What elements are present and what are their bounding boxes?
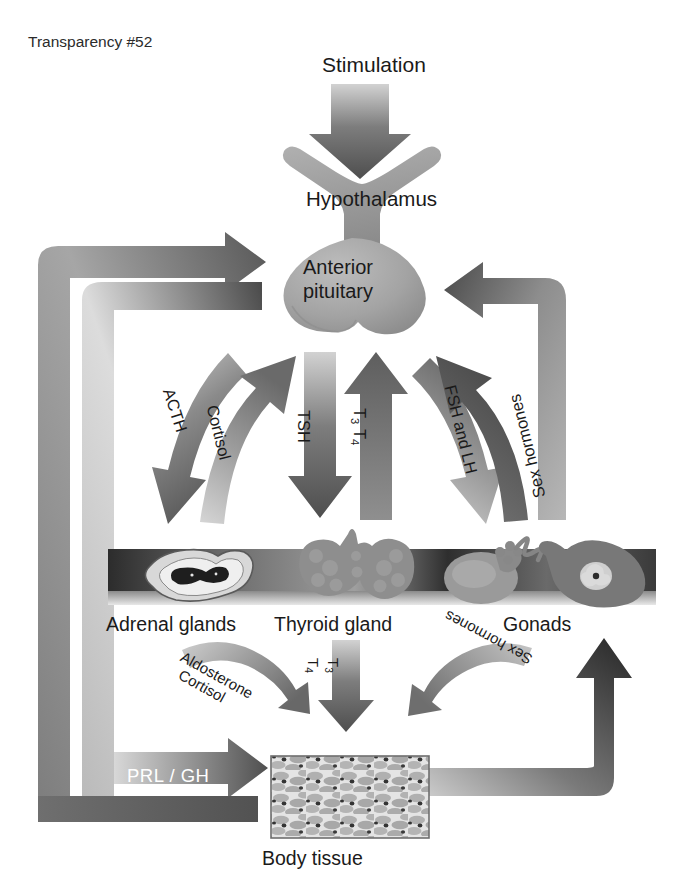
t3t4-down-sub3: 3: [323, 667, 334, 673]
left-feedback-loop-outer: [38, 232, 266, 800]
t3t4-up-label: T3 T4: [349, 408, 369, 445]
gonads-label: Gonads: [503, 613, 571, 636]
diagram-canvas: Transparency #52 Stimulation Hypothalamu…: [0, 0, 696, 885]
diagram-svg: [0, 0, 696, 885]
prl-gh-label: PRL / GH: [127, 765, 209, 787]
stimulation-label: Stimulation: [322, 53, 426, 77]
t3t4-down-arrow: [318, 640, 374, 732]
t3t4-up-sub3: 3: [349, 418, 361, 424]
anterior-pituitary-label-line2: pituitary: [303, 279, 373, 303]
adrenal-glands-label: Adrenal glands: [106, 613, 236, 636]
t3t4-down-label: T3 T4: [302, 658, 341, 673]
t3t4-up-t2: T: [351, 429, 369, 439]
tsh-label: TSH: [294, 410, 313, 443]
left-loop-bottom-bar: [38, 796, 258, 822]
t3t4-down-t1: T: [325, 658, 342, 667]
anterior-pituitary-label-line1: Anterior: [303, 255, 373, 279]
t3t4-down-t2: T: [305, 658, 322, 667]
anterior-pituitary-label: Anterior pituitary: [303, 255, 373, 303]
transparency-number: Transparency #52: [28, 33, 152, 51]
t3t4-up-sub4: 4: [349, 439, 361, 445]
body-tissue-image: [271, 756, 429, 838]
hypothalamus-label: Hypothalamus: [306, 187, 437, 211]
body-tissue-label: Body tissue: [262, 847, 363, 870]
t3t4-down-sub4: 4: [304, 667, 315, 673]
thyroid-gland-label: Thyroid gland: [274, 613, 392, 636]
t3t4-up-t1: T: [351, 408, 369, 418]
